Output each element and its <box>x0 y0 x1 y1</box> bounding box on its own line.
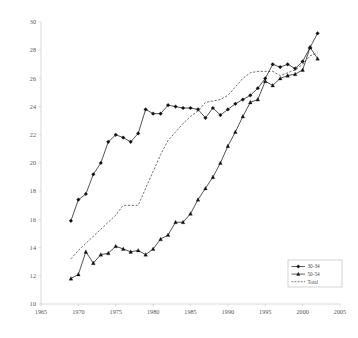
data-point-marker <box>219 161 223 165</box>
data-point-marker <box>293 72 297 76</box>
y-tick-label: 12 <box>30 272 36 279</box>
data-point-marker <box>189 106 193 110</box>
x-tick-label: 2005 <box>334 308 346 315</box>
data-point-marker <box>151 112 155 116</box>
y-tick-label: 30 <box>30 18 36 25</box>
data-point-marker <box>144 253 148 257</box>
x-tick-label: 1990 <box>222 308 234 315</box>
y-tick-label: 14 <box>30 244 36 251</box>
y-tick-label: 22 <box>30 131 36 138</box>
series-path <box>71 53 318 259</box>
x-axis-ticks: 196519701975198019851990199520002005 <box>35 304 346 315</box>
line-chart: 1012141618202224262830 19651970197519801… <box>0 0 358 338</box>
series-path <box>71 47 318 278</box>
x-tick-label: 1985 <box>184 308 196 315</box>
data-point-marker <box>121 136 125 140</box>
y-tick-label: 28 <box>30 46 36 53</box>
x-tick-label: 1970 <box>72 308 84 315</box>
data-point-marker <box>114 244 118 248</box>
data-point-marker <box>278 65 282 69</box>
y-tick-label: 26 <box>30 75 36 82</box>
y-axis: 1012141618202224262830 <box>30 18 41 307</box>
series-30-34 <box>69 31 319 222</box>
data-point-marker <box>189 212 193 216</box>
x-tick-label: 1965 <box>35 308 47 315</box>
data-point-marker <box>84 250 88 254</box>
data-point-marker <box>234 130 238 134</box>
legend-item-label: 30-34 <box>308 263 321 269</box>
data-point-marker <box>286 62 290 66</box>
x-axis: 196519701975198019851990199520002005 <box>35 304 346 315</box>
legend-item-label: 50-54 <box>308 271 321 277</box>
y-tick-label: 16 <box>30 216 36 223</box>
series-50-54 <box>69 45 319 280</box>
data-point-marker <box>226 144 230 148</box>
series-path <box>71 33 318 221</box>
data-point-marker <box>301 68 305 72</box>
y-tick-label: 24 <box>30 103 36 110</box>
data-point-marker <box>211 175 215 179</box>
data-point-marker <box>69 277 73 281</box>
data-point-marker <box>241 98 245 102</box>
y-tick-label: 20 <box>30 159 36 166</box>
data-point-marker <box>144 108 148 112</box>
chart-container: 1012141618202224262830 19651970197519801… <box>0 0 358 338</box>
data-point-marker <box>136 248 140 252</box>
x-tick-label: 1995 <box>259 308 271 315</box>
y-tick-label: 18 <box>30 187 36 194</box>
chart-legend: 30-3450-54Total <box>288 260 342 287</box>
data-point-marker <box>241 114 245 118</box>
x-tick-label: 2000 <box>296 308 308 315</box>
data-point-marker <box>316 31 320 35</box>
x-tick-label: 1975 <box>110 308 122 315</box>
series-total <box>71 53 318 259</box>
data-point-marker <box>77 272 81 276</box>
data-point-marker <box>181 106 185 110</box>
legend-item-label: Total <box>308 279 319 285</box>
y-axis-ticks: 1012141618202224262830 <box>30 18 41 307</box>
series-layer <box>69 31 319 280</box>
data-point-marker <box>159 237 163 241</box>
data-point-marker <box>271 62 275 66</box>
data-point-marker <box>174 105 178 109</box>
data-point-marker <box>256 98 260 102</box>
data-point-marker <box>69 219 73 223</box>
y-tick-label: 10 <box>30 300 36 307</box>
x-tick-label: 1980 <box>147 308 159 315</box>
